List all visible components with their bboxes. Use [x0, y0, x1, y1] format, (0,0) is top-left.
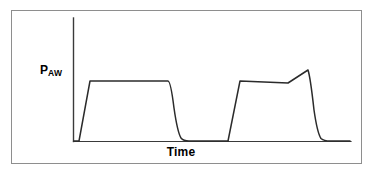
- waveform-group: [74, 70, 350, 141]
- y-axis-label-main: P: [40, 63, 48, 77]
- breath-waveform-1: [74, 81, 228, 141]
- y-axis-label-subscript: AW: [48, 68, 62, 78]
- y-axis-label: PAW: [40, 64, 62, 76]
- x-axis-label: Time: [167, 146, 196, 158]
- breath-waveform-2: [228, 70, 350, 141]
- figure-root: PAW Time: [0, 0, 373, 174]
